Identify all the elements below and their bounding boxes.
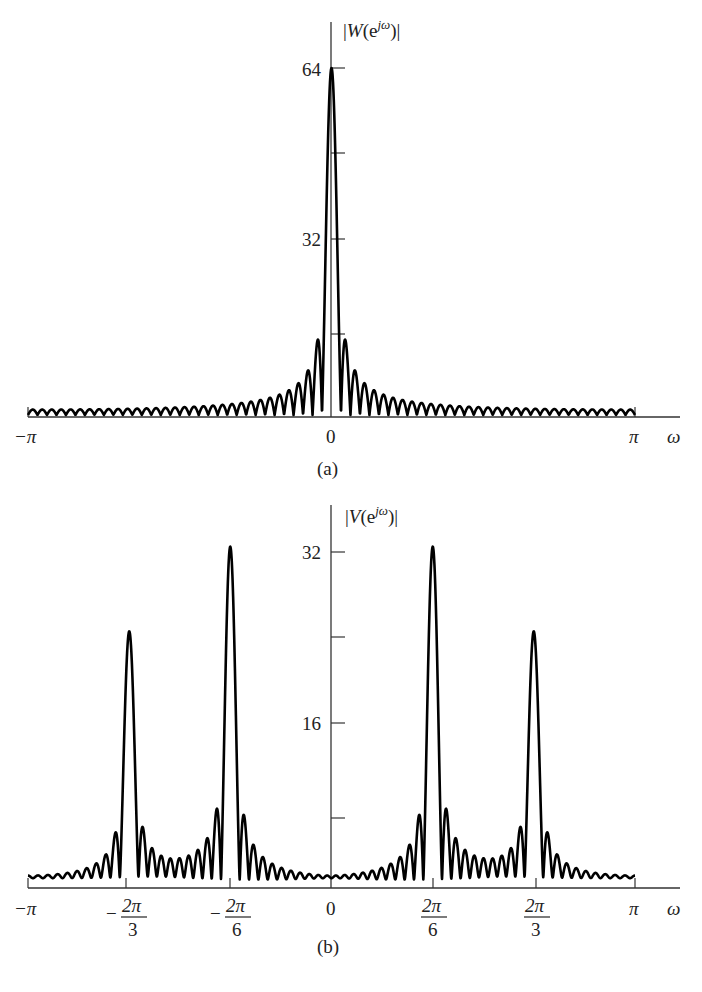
figure: |W(ejω)| 64 32 −π 0 π ω (a) |V(ejω)| 32 … — [0, 0, 702, 992]
xlabel-zero-b: 0 — [326, 898, 336, 919]
xlabel-neg-2pi3-num: 2π — [122, 895, 142, 916]
xlabel-neg-2pi6-num: 2π — [226, 895, 246, 916]
ylabel-64-a: 64 — [302, 59, 322, 80]
panel-a: |W(ejω)| 64 32 −π 0 π ω (a) — [14, 17, 680, 480]
panel-label-b: (b) — [317, 936, 339, 958]
xlabel-omega-a: ω — [667, 426, 680, 447]
xlabel-zero-a: 0 — [326, 426, 336, 447]
xlabel-neg-2pi6-den: 6 — [232, 919, 242, 940]
xlabel-omega-b: ω — [667, 898, 680, 919]
xlabel-neg-pi-b: −π — [14, 898, 37, 919]
xlabel-neg-2pi6-minus: − — [210, 903, 221, 924]
xlabel-2pi3-num: 2π — [525, 895, 545, 916]
xlabel-2pi6-den: 6 — [428, 919, 438, 940]
xlabel-pi-a: π — [629, 426, 639, 447]
panel-label-a: (a) — [317, 458, 338, 480]
ylabel-16-b: 16 — [302, 713, 321, 734]
ylabel-32-b: 32 — [302, 542, 321, 563]
xlabel-neg-2pi3-minus: − — [106, 903, 117, 924]
ylabel-a: |W(ejω)| — [343, 17, 400, 42]
ylabel-b: |V(ejω)| — [345, 503, 398, 528]
xlabel-neg-pi-a: −π — [14, 426, 37, 447]
xlabel-2pi3-den: 3 — [531, 919, 541, 940]
xlabel-pi-b: π — [629, 898, 639, 919]
panel-b: |V(ejω)| 32 16 −π − 2π 3 − 2π 6 0 2π 6 2… — [14, 503, 680, 958]
xlabel-2pi6-num: 2π — [422, 895, 442, 916]
ylabel-32-a: 32 — [302, 229, 321, 250]
xlabel-neg-2pi3-den: 3 — [128, 919, 138, 940]
